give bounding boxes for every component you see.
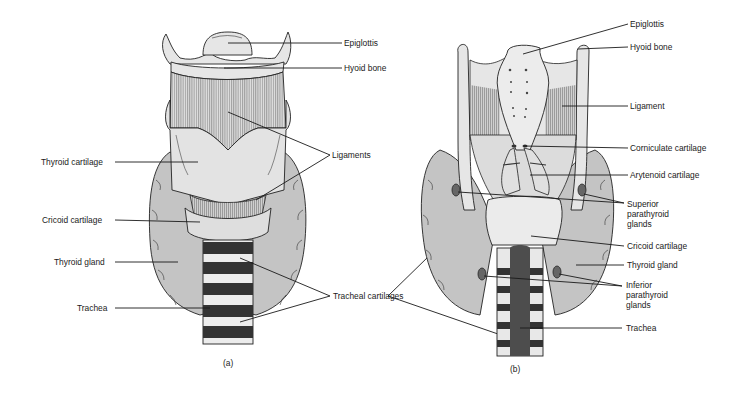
label-b-corniculate-cartilage: Corniculate cartilage [630, 143, 706, 153]
panel-b-trachea [497, 245, 543, 356]
label-b-epiglottis: Epiglottis [630, 19, 664, 29]
label-a-epiglottis: Epiglottis [344, 38, 378, 48]
thyroid-larynx-diagram: Epiglottis Hyoid bone Ligaments Thyroid … [0, 0, 739, 406]
label-a-hyoid-bone: Hyoid bone [344, 63, 386, 73]
inferior-parathyroid-right [553, 266, 561, 278]
panel-a-trachea [203, 240, 253, 344]
label-b-trachea: Trachea [626, 323, 656, 333]
caption-b: (b) [510, 364, 520, 374]
superior-parathyroid-left [452, 184, 460, 196]
label-a-ligaments: Ligaments [332, 150, 371, 160]
label-b-cricoid-cartilage: Cricoid cartilage [627, 241, 687, 251]
label-b-arytenoid-cartilage: Arytenoid cartilage [630, 170, 699, 180]
label-a-thyroid-gland: Thyroid gland [54, 257, 105, 267]
label-tracheal-cartilages: Tracheal cartilages [333, 291, 403, 301]
label-a-thyroid-cartilage: Thyroid cartilage [41, 157, 103, 167]
inferior-parathyroid-left [478, 268, 486, 280]
label-b-ligament: Ligament [630, 101, 664, 111]
panel-b-drawing [421, 24, 628, 356]
caption-a: (a) [223, 358, 233, 368]
label-b-inferior-parathyroid-glands: Inferior parathyroid glands [626, 280, 706, 310]
label-a-trachea: Trachea [77, 303, 107, 313]
label-b-hyoid-bone: Hyoid bone [630, 42, 672, 52]
label-b-superior-parathyroid-glands: Superior parathyroid glands [627, 199, 707, 229]
label-b-thyroid-gland: Thyroid gland [627, 260, 678, 270]
label-a-cricoid-cartilage: Cricoid cartilage [42, 215, 102, 225]
